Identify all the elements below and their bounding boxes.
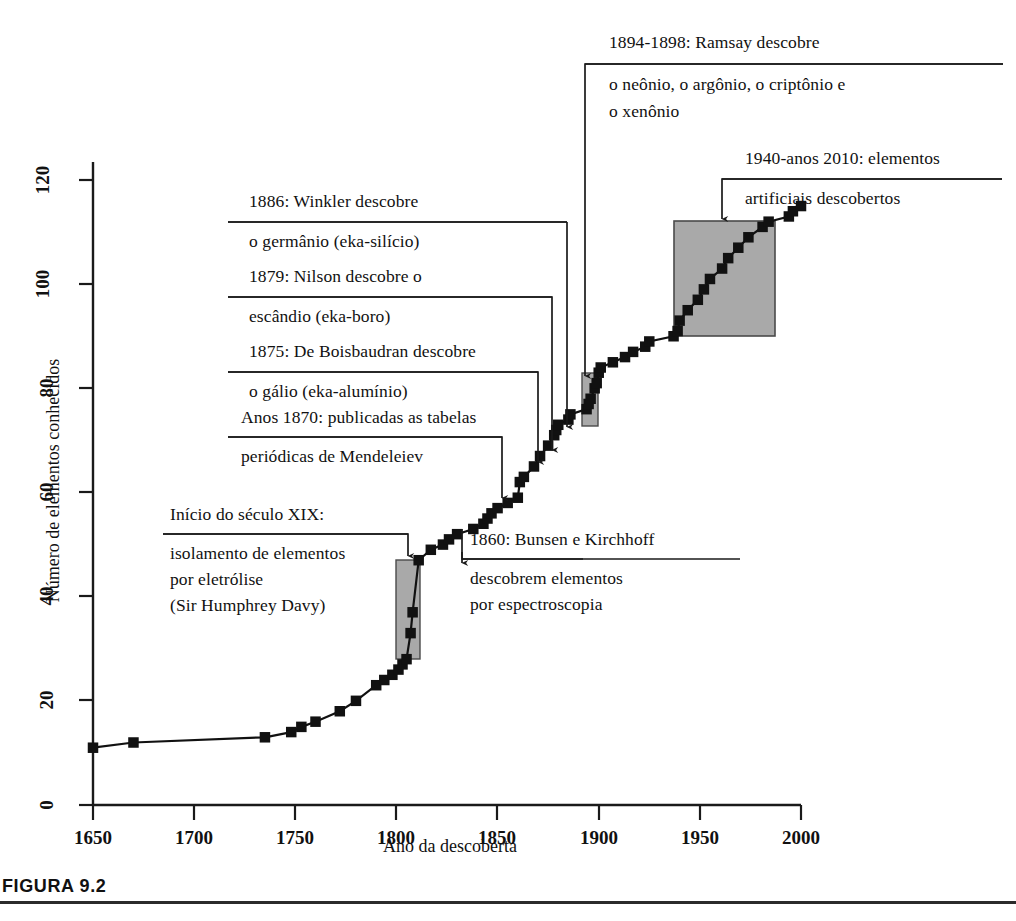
artificial-elements-box bbox=[674, 221, 775, 336]
figure-caption-rule bbox=[0, 901, 1016, 904]
data-point bbox=[699, 284, 710, 295]
y-tick-100: 100 bbox=[32, 261, 54, 307]
data-point bbox=[674, 315, 685, 326]
chart-canvas bbox=[0, 0, 1016, 921]
data-point bbox=[595, 362, 606, 373]
x-tick-1950: 1950 bbox=[665, 827, 735, 849]
data-point bbox=[286, 727, 297, 738]
annotation-winkler-line1: 1886: Winkler descobre bbox=[249, 189, 418, 215]
data-point bbox=[351, 696, 362, 707]
data-point bbox=[693, 295, 704, 306]
x-axis-ticks bbox=[93, 805, 801, 820]
x-tick-1750: 1750 bbox=[260, 827, 330, 849]
data-point bbox=[426, 545, 437, 556]
y-axis-title: Número de elementos conhecidos bbox=[43, 351, 64, 611]
data-point bbox=[763, 216, 774, 227]
annotation-boisbaudran-line1: 1875: De Boisbaudran descobre bbox=[249, 339, 476, 365]
data-point bbox=[128, 737, 139, 748]
x-tick-1900: 1900 bbox=[564, 827, 634, 849]
data-point bbox=[413, 555, 424, 566]
data-point bbox=[743, 232, 754, 243]
x-tick-1650: 1650 bbox=[58, 827, 128, 849]
annotation-artificial-line2: artificiais descobertos bbox=[745, 186, 900, 212]
data-point bbox=[608, 357, 619, 368]
annotation-winkler-line2: o germânio (eka-silício) bbox=[249, 229, 420, 255]
data-point bbox=[296, 722, 307, 733]
y-axis-ticks bbox=[79, 180, 93, 805]
annotation-bunsen-line1: 1860: Bunsen e Kirchhoff bbox=[470, 527, 654, 553]
annotation-nilson-line1: 1879: Nilson descobre o bbox=[249, 264, 422, 290]
annotation-davy-line2: isolamento de elementos bbox=[170, 541, 345, 567]
annotation-mendeleiev-line2: periódicas de Mendeleiev bbox=[241, 444, 423, 470]
annotation-ramsay-line3: o xenônio bbox=[609, 99, 679, 125]
data-point bbox=[401, 654, 412, 665]
data-point bbox=[452, 529, 463, 540]
x-tick-1700: 1700 bbox=[159, 827, 229, 849]
figure-container: 0 20 40 60 80 100 120 1650 1700 1750 180… bbox=[0, 0, 1016, 921]
data-point bbox=[513, 492, 524, 503]
data-point bbox=[585, 394, 596, 405]
annotation-bunsen-line2: descobrem elementos bbox=[470, 566, 623, 592]
x-axis-title: Ano da descoberta bbox=[330, 836, 570, 857]
y-tick-20: 20 bbox=[36, 677, 58, 723]
data-point bbox=[628, 347, 639, 358]
annotation-davy-line3: por eletrólise bbox=[170, 567, 263, 593]
data-point bbox=[310, 716, 321, 727]
annotation-artificial-line1: 1940-anos 2010: elementos bbox=[745, 146, 940, 172]
data-point bbox=[733, 242, 744, 253]
data-point bbox=[705, 274, 716, 285]
data-point bbox=[723, 253, 734, 264]
bunsen-leader bbox=[462, 552, 583, 559]
figure-caption-block: FIGURA 9.2 bbox=[0, 876, 1016, 904]
annotation-boisbaudran-line2: o gálio (eka-alumínio) bbox=[249, 379, 408, 405]
data-point bbox=[407, 607, 418, 618]
data-point bbox=[529, 461, 540, 472]
data-point bbox=[260, 732, 271, 743]
data-point bbox=[672, 326, 683, 337]
figure-caption-label: FIGURA 9.2 bbox=[0, 876, 1016, 897]
data-point bbox=[535, 451, 546, 462]
y-tick-120: 120 bbox=[32, 157, 54, 203]
data-point bbox=[682, 305, 693, 316]
data-point bbox=[88, 742, 99, 753]
data-point bbox=[519, 472, 530, 483]
data-point bbox=[717, 263, 728, 274]
data-point bbox=[405, 628, 416, 639]
annotation-ramsay-line2: o neônio, o argônio, o criptônio e bbox=[609, 72, 845, 98]
data-point bbox=[553, 420, 564, 431]
annotation-nilson-line2: escândio (eka-boro) bbox=[249, 304, 390, 330]
data-point bbox=[492, 503, 503, 514]
annotation-davy-line4: (Sir Humphrey Davy) bbox=[170, 593, 325, 619]
data-point bbox=[591, 378, 602, 389]
annotation-ramsay-line1: 1894-1898: Ramsay descobre bbox=[609, 30, 820, 56]
annotation-bunsen-line3: por espectroscopia bbox=[470, 592, 603, 618]
annotation-mendeleiev-line1: Anos 1870: publicadas as tabelas bbox=[241, 405, 477, 431]
data-point bbox=[335, 706, 346, 717]
annotation-davy-line1: Início do século XIX: bbox=[170, 502, 324, 528]
y-tick-0: 0 bbox=[36, 782, 58, 828]
data-point bbox=[644, 336, 655, 347]
data-point bbox=[502, 498, 513, 509]
x-tick-2000: 2000 bbox=[766, 827, 836, 849]
